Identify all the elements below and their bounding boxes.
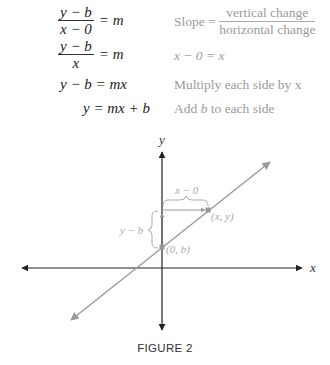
point-general-label: (x, y) (211, 210, 234, 223)
vertical-change-label: y − b (119, 224, 144, 236)
point-intercept (160, 245, 165, 250)
x-axis-label: x (309, 260, 316, 275)
figure-caption: FIGURE 2 (0, 342, 330, 354)
line-graph (71, 162, 270, 320)
y-axis-label: y (157, 132, 165, 147)
point-intercept-label: (0, b) (166, 243, 190, 256)
point-general (206, 208, 211, 213)
vertical-brace-icon (148, 211, 158, 248)
horizontal-change-label: x − 0 (174, 184, 199, 196)
coordinate-plane-figure: y x (0, b) (x, y) x − 0 y − b (0, 0, 330, 365)
horizontal-brace-icon (163, 196, 208, 206)
